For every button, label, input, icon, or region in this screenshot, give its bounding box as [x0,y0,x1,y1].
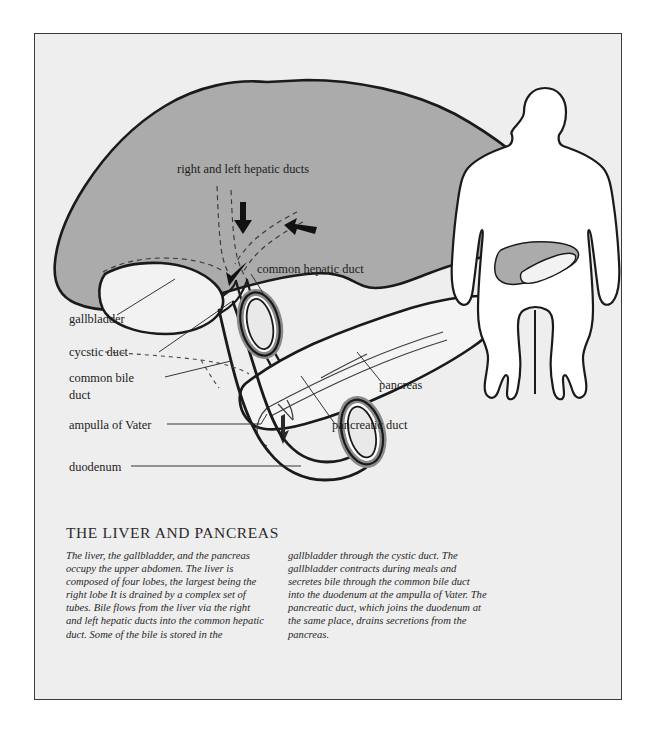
leader-common-bile [165,361,231,377]
caption-text-left: The liver, the gallbladder, and the panc… [66,549,266,641]
caption-columns: The liver, the gallbladder, and the panc… [66,549,496,641]
illustration-frame: right and left hepatic ducts common hepa… [34,33,622,700]
label-pancreas: pancreas [379,378,423,392]
label-hepatic-ducts: right and left hepatic ducts [177,162,309,176]
duodenum-ring-lower [335,395,390,469]
label-duodenum: duodenum [69,460,122,474]
duodenum-ring-upper [235,289,285,360]
label-cystic-duct: cycstic duct [69,345,128,359]
label-common-hepatic-duct: common hepatic duct [257,262,364,276]
label-pancreatic-duct: pancreatic duct [332,418,408,432]
caption-column-right: gallbladder through the cystic duct. The… [288,549,488,641]
caption-block: THE LIVER AND PANCREAS The liver, the ga… [66,524,496,641]
caption-column-left: The liver, the gallbladder, and the panc… [66,549,266,641]
label-common-bile-duct-line1: common bile [69,371,135,385]
figure-title: THE LIVER AND PANCREAS [66,524,496,542]
label-gallbladder: gallbladder [69,312,126,326]
label-common-bile-duct-line2: duct [69,388,91,402]
illustration-page: right and left hepatic ducts common hepa… [0,0,653,731]
caption-text-right: gallbladder through the cystic duct. The… [288,549,488,641]
label-ampulla-of-vater: ampulla of Vater [69,418,152,432]
